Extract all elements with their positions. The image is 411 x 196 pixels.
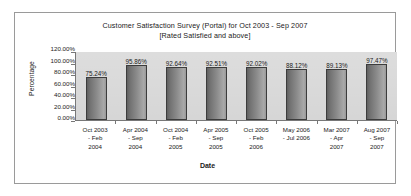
x-axis-category-label-line: 2007 (357, 143, 397, 151)
x-axis-category-label-line: - Feb (156, 134, 196, 142)
bar[interactable]: 97.47% (366, 64, 387, 120)
bar[interactable]: 92.51% (206, 67, 227, 120)
x-axis-category-label-line: Oct 2005 (236, 126, 276, 134)
bar-slot: 92.02% (237, 52, 277, 120)
bar-value-label: 89.13% (326, 62, 347, 69)
x-axis-category-label-line: 2005 (196, 143, 236, 151)
x-axis-category-label-line: - Sep (357, 134, 397, 142)
x-axis-category-label: May 2006- Jul 2006 (276, 126, 316, 151)
bar-slot: 92.51% (196, 52, 236, 120)
x-axis-tick-marks (75, 121, 397, 125)
x-axis-category-label: Mar 2007- Apr2007 (317, 126, 357, 151)
x-axis-category-label-line: Oct 2004 (156, 126, 196, 134)
x-axis-category-label-line: - Jul 2006 (276, 134, 316, 142)
y-axis-tick-label: 80.00% (33, 69, 75, 75)
x-axis-category-label-line: 2004 (75, 143, 115, 151)
x-axis-category-label: Aug 2007- Sep2007 (357, 126, 397, 151)
bar-value-label: 92.02% (246, 60, 267, 67)
plot-area: 75.24%95.86%92.64%92.51%92.02%88.12%89.1… (75, 52, 397, 121)
x-axis-tick-mark (156, 121, 157, 124)
x-axis-category-label-line: Oct 2003 (75, 126, 115, 134)
bar-slot: 75.24% (76, 52, 116, 120)
y-axis-tick-label: 40.00% (33, 92, 75, 98)
x-axis-category-label: Oct 2004- Feb2005 (156, 126, 196, 151)
bar[interactable]: 95.86% (126, 65, 147, 120)
x-axis-title: Date (75, 162, 340, 169)
y-axis-tick-labels: 120.00%100.00%80.00%60.00%40.00%20.00%0.… (33, 49, 75, 121)
x-axis-category-label-line: 2006 (236, 143, 276, 151)
bar[interactable]: 92.02% (246, 67, 267, 120)
bar-value-label: 88.12% (286, 62, 307, 69)
chart-title-line2: [Rated Satisfied and above] (15, 31, 395, 41)
y-axis-tick-label: 0.00% (33, 115, 75, 121)
x-axis-tick-mark (317, 121, 318, 124)
y-axis-tick-label: 120.00% (33, 46, 75, 52)
x-axis-tick-mark (276, 121, 277, 124)
bar[interactable]: 88.12% (286, 69, 307, 120)
bar[interactable]: 89.13% (326, 69, 347, 120)
y-axis-tick-label: 60.00% (33, 81, 75, 87)
chart-container: Customer Satisfaction Survey (Portal) fo… (14, 12, 396, 184)
chart-title: Customer Satisfaction Survey (Portal) fo… (15, 21, 395, 41)
x-axis-tick-mark (397, 121, 398, 124)
x-axis-category-label-line: - Feb (236, 134, 276, 142)
x-axis-category-label-line: Mar 2007 (317, 126, 357, 134)
bar-value-label: 92.64% (166, 60, 187, 67)
y-axis-tick-label: 20.00% (33, 104, 75, 110)
x-axis-category-label-line: 2005 (156, 143, 196, 151)
x-axis-category-label: Apr 2004- Sep2004 (115, 126, 155, 151)
bar-value-label: 75.24% (85, 70, 106, 77)
bar-value-label: 97.47% (366, 57, 387, 64)
x-axis-category-label-line: 2004 (115, 143, 155, 151)
x-axis-category-label-line: - Sep (196, 134, 236, 142)
x-axis-category-label-line: Apr 2004 (115, 126, 155, 134)
bar-slot: 97.47% (357, 52, 397, 120)
x-axis-category-label: Oct 2005- Feb2006 (236, 126, 276, 151)
x-axis-category-label-line: Apr 2005 (196, 126, 236, 134)
x-axis-category-label-line: - Apr (317, 134, 357, 142)
x-axis-category-label: Oct 2003- Feb2004 (75, 126, 115, 151)
bar-slot: 95.86% (116, 52, 156, 120)
y-axis-tick-label: 100.00% (33, 58, 75, 64)
bar-value-label: 95.86% (126, 58, 147, 65)
x-axis-category-label-line: Aug 2007 (357, 126, 397, 134)
bar[interactable]: 92.64% (166, 67, 187, 120)
x-axis-category-label-line: - Feb (75, 134, 115, 142)
x-axis-category-label: Apr 2005- Sep2005 (196, 126, 236, 151)
chart-title-line1: Customer Satisfaction Survey (Portal) fo… (102, 21, 307, 30)
x-axis-tick-mark (357, 121, 358, 124)
bar-series: 75.24%95.86%92.64%92.51%92.02%88.12%89.1… (76, 52, 397, 120)
x-axis-tick-labels: Oct 2003- Feb2004Apr 2004- Sep2004Oct 20… (75, 126, 397, 151)
x-axis-tick-mark (196, 121, 197, 124)
bar[interactable]: 75.24% (86, 77, 107, 120)
x-axis-category-label-line: - Sep (115, 134, 155, 142)
bar-slot: 92.64% (156, 52, 196, 120)
bar-value-label: 92.51% (206, 60, 227, 67)
bar-slot: 88.12% (277, 52, 317, 120)
x-axis-category-label-line: May 2006 (276, 126, 316, 134)
bar-slot: 89.13% (317, 52, 357, 120)
x-axis-tick-mark (115, 121, 116, 124)
x-axis-category-label-line: 2007 (317, 143, 357, 151)
x-axis-tick-mark (236, 121, 237, 124)
